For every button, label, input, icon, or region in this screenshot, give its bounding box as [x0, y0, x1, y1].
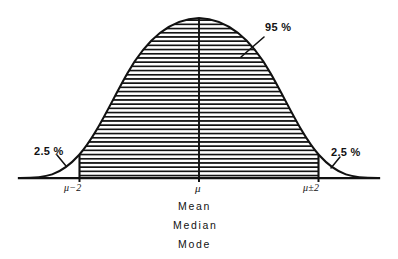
- center-stat-median: Median: [173, 220, 218, 231]
- axis-tick-label-center: μ: [195, 183, 201, 194]
- left-tail-percent-label: 2.5 %: [34, 146, 64, 157]
- axis-tick-label-left: μ−2: [64, 183, 81, 193]
- leader-line-right-tail: [331, 157, 340, 168]
- center-stat-mean: Mean: [178, 201, 211, 212]
- axis-tick-label-right: μ±2: [303, 183, 319, 193]
- center-stat-mode: Mode: [178, 239, 211, 250]
- right-tail-percent-label: 2.5 %: [331, 147, 361, 158]
- normal-distribution-figure: 95 % 2.5 % 2.5 % μ−2 μ μ±2 Mean Median M…: [0, 0, 398, 259]
- central-area-percent-label: 95 %: [265, 22, 291, 33]
